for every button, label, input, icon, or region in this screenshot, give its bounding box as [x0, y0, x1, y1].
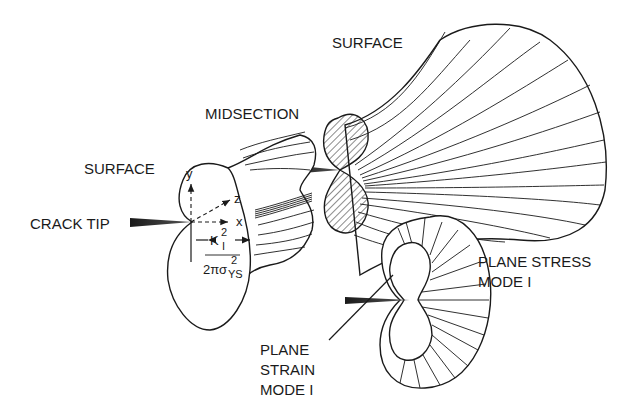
plastic-zone-diagram: y z x K 2 I 2πσ 2 YS: [0, 0, 635, 419]
axis-x-label: x: [236, 214, 243, 229]
label-plane-strain-2: STRAIN: [260, 361, 315, 378]
crack-tip-wedge: [130, 218, 192, 227]
dim-numerator-sub: I: [222, 240, 225, 252]
label-crack-tip: CRACK TIP: [30, 215, 110, 232]
label-surface-top: SURFACE: [332, 34, 403, 51]
dim-denominator-sub: YS: [228, 268, 243, 280]
dim-denominator-sup: 2: [231, 254, 237, 266]
plane-stress-strain-zones: [380, 216, 491, 388]
label-midsection: MIDSECTION: [205, 105, 299, 122]
dim-numerator-base: K: [210, 233, 219, 248]
label-surface-left: SURFACE: [84, 160, 155, 177]
surface-front-shape: [168, 132, 316, 330]
label-plane-stress-2: MODE I: [478, 273, 531, 290]
axis-y-label: y: [186, 166, 193, 181]
dim-denominator-base: 2πσ: [203, 262, 227, 277]
label-plane-strain-3: MODE I: [260, 381, 313, 398]
label-plane-stress-1: PLANE STRESS: [478, 253, 591, 270]
dim-numerator-sup: 2: [221, 226, 227, 238]
label-plane-strain-1: PLANE: [260, 341, 309, 358]
axis-z-label: z: [234, 191, 241, 206]
